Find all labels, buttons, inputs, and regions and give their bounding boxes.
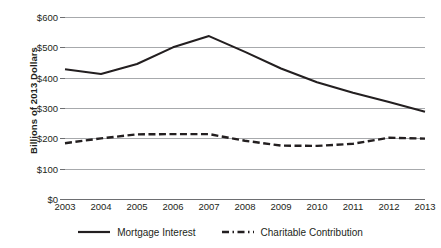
x-axis-tick-label: 2004 — [90, 201, 111, 212]
x-axis-line — [65, 199, 425, 200]
solid-line-icon — [78, 227, 110, 237]
line-chart: Billions of 2013 Dollars $0$100$200$300$… — [0, 0, 441, 248]
y-axis-tick-label: $600 — [20, 12, 58, 23]
x-axis-tick-label: 2007 — [198, 201, 219, 212]
x-axis-tick-label: 2013 — [414, 201, 435, 212]
x-axis-tick-label: 2003 — [54, 201, 75, 212]
x-axis-tick-label: 2009 — [270, 201, 291, 212]
y-axis-labels: $0$100$200$300$400$500$600 — [18, 17, 58, 199]
legend-label: Charitable Contribution — [261, 227, 363, 238]
legend-label: Mortgage Interest — [117, 227, 195, 238]
x-axis-tick-label: 2005 — [126, 201, 147, 212]
y-axis-tick — [60, 199, 65, 200]
chart-legend: Mortgage InterestCharitable Contribution — [0, 222, 441, 242]
y-axis-tick-label: $400 — [20, 72, 58, 83]
y-axis-tick-label: $0 — [20, 194, 58, 205]
legend-item[interactable]: Charitable Contribution — [222, 227, 363, 238]
x-axis-tick-label: 2012 — [378, 201, 399, 212]
dash-dot-line-icon — [222, 227, 254, 237]
y-axis-tick-label: $200 — [20, 133, 58, 144]
x-axis-tick-label: 2011 — [343, 201, 363, 212]
y-axis-tick-label: $500 — [20, 42, 58, 53]
plot-area — [65, 17, 425, 199]
y-axis-tick-label: $300 — [20, 103, 58, 114]
x-axis-labels: 2003200420052006200720082009201020112012… — [65, 201, 425, 217]
series-line — [65, 134, 425, 146]
legend-item[interactable]: Mortgage Interest — [78, 227, 195, 238]
x-axis-tick-label: 2006 — [162, 201, 183, 212]
x-axis-tick-label: 2008 — [234, 201, 255, 212]
series-lines — [65, 17, 425, 199]
y-axis-tick-label: $100 — [20, 163, 58, 174]
series-line — [65, 36, 425, 112]
x-axis-tick-label: 2010 — [306, 201, 327, 212]
